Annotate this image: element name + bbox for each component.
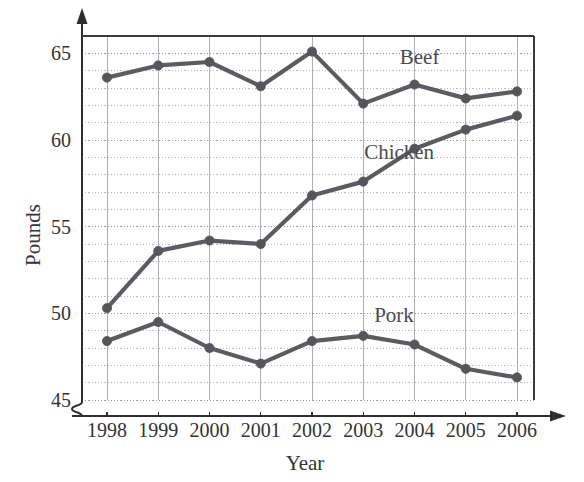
data-point — [256, 359, 265, 368]
data-point — [359, 99, 368, 108]
x-tick-label: 2006 — [497, 419, 537, 441]
data-point — [307, 336, 316, 345]
series-label-pork: Pork — [374, 303, 414, 327]
y-tick-label: 45 — [51, 389, 71, 411]
data-point — [154, 317, 163, 326]
axis-break-symbol — [72, 398, 82, 416]
x-tick-label: 2004 — [395, 419, 435, 441]
data-point — [307, 191, 316, 200]
series-label-beef: Beef — [400, 45, 440, 69]
y-tick-label: 50 — [51, 302, 71, 324]
data-point — [256, 82, 265, 91]
data-point — [205, 57, 214, 66]
data-point — [512, 111, 521, 120]
x-tick-label: 2000 — [190, 419, 230, 441]
data-point — [102, 73, 111, 82]
data-point — [154, 246, 163, 255]
data-point — [512, 87, 521, 96]
x-tick-label: 1998 — [87, 419, 127, 441]
data-point — [154, 61, 163, 70]
series-label-chicken: Chicken — [364, 140, 434, 164]
data-point — [461, 364, 470, 373]
data-point — [359, 177, 368, 186]
data-point — [102, 304, 111, 313]
data-point — [461, 125, 470, 134]
x-tick-label: 1999 — [138, 419, 178, 441]
data-point — [410, 80, 419, 89]
y-axis-tick-labels: 4550556065 — [51, 42, 71, 411]
y-tick-label: 55 — [51, 216, 71, 238]
data-point — [410, 340, 419, 349]
data-point — [461, 94, 470, 103]
x-tick-label: 2005 — [446, 419, 486, 441]
x-tick-label: 2002 — [292, 419, 332, 441]
y-tick-label: 60 — [51, 129, 71, 151]
x-axis-title: Year — [286, 451, 325, 475]
chart-canvas: 4550556065 19981999200020012002200320042… — [0, 0, 584, 482]
line-chart-figure: 4550556065 19981999200020012002200320042… — [0, 0, 584, 482]
data-point — [307, 47, 316, 56]
data-point — [359, 331, 368, 340]
x-tick-label: 2003 — [343, 419, 383, 441]
data-point — [205, 343, 214, 352]
y-tick-label: 65 — [51, 42, 71, 64]
data-point — [102, 336, 111, 345]
data-point — [205, 236, 214, 245]
y-axis-title: Pounds — [21, 204, 45, 266]
x-tick-label: 2001 — [241, 419, 281, 441]
data-point — [512, 373, 521, 382]
data-point — [256, 239, 265, 248]
